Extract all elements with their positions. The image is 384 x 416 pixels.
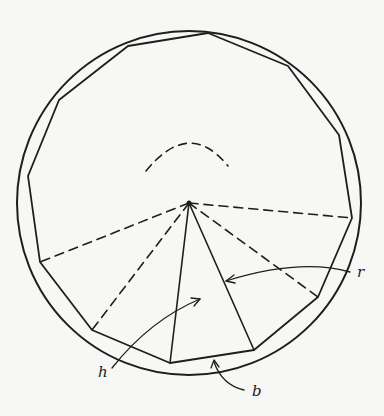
label-h: h <box>98 363 108 381</box>
triangle-side-left <box>170 203 189 363</box>
inscribed-polygon <box>28 33 352 363</box>
center-point <box>187 201 192 206</box>
solid-triangle <box>170 203 254 363</box>
r-leader-curve <box>226 267 350 281</box>
triangle-side-right <box>189 203 254 350</box>
dashed-radius <box>189 203 318 297</box>
dashed-radius <box>189 203 352 218</box>
label-b-leader <box>211 360 244 390</box>
dashed-angle-arc <box>146 143 228 171</box>
label-b: b <box>252 382 262 400</box>
label-r: r <box>357 263 365 281</box>
polygon-area-diagram: r h b <box>0 0 384 416</box>
